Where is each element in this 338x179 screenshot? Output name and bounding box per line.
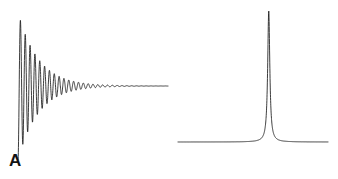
- panel-b-plot: [172, 0, 338, 179]
- panel-b: B: [172, 0, 338, 179]
- panel-a-plot: [0, 0, 172, 179]
- panel-label-a: A: [9, 152, 21, 169]
- fid-trace: [18, 20, 168, 160]
- panel-a: A: [0, 0, 172, 179]
- figure-root: A B: [0, 0, 338, 179]
- lorentzian-trace: [178, 11, 328, 142]
